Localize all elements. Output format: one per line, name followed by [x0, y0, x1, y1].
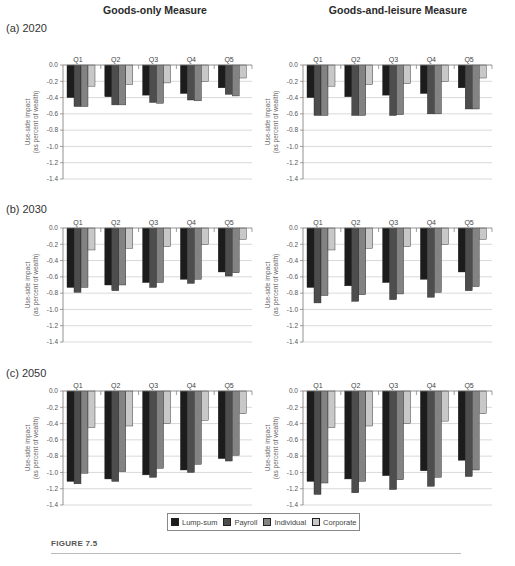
bar: [458, 391, 465, 460]
y-tick-label: -0.4: [287, 420, 299, 427]
bar: [366, 391, 373, 426]
legend-label: Individual: [274, 518, 306, 527]
bar: [390, 391, 397, 490]
bar: [479, 391, 486, 414]
y-axis-title: (as percent of wealth): [272, 417, 280, 480]
chart-legend: Lump-sum Payroll Individual Corporate: [167, 513, 360, 531]
individual-swatch-icon: [263, 518, 271, 526]
lump-sum-swatch-icon: [171, 518, 179, 526]
y-tick-label: -1.0: [287, 469, 299, 476]
figure-divider: [51, 553, 461, 554]
legend-item-lump-sum: Lump-sum: [171, 518, 217, 527]
bar: [465, 391, 472, 477]
figure-label: FIGURE 7.5: [51, 539, 98, 548]
bar: [472, 391, 479, 470]
legend-label: Corporate: [323, 518, 356, 527]
legend-label: Lump-sum: [182, 518, 217, 527]
y-tick-label: -0.8: [287, 452, 299, 459]
y-tick-label: -1.4: [287, 501, 299, 508]
y-tick-label: 0.0: [289, 387, 298, 394]
legend-label: Payroll: [234, 518, 257, 527]
y-tick-label: -0.6: [287, 436, 299, 443]
bar: [404, 391, 411, 424]
legend-item-payroll: Payroll: [223, 518, 257, 527]
bar: [383, 391, 390, 476]
payroll-swatch-icon: [223, 518, 231, 526]
category-label: Q1: [313, 382, 322, 390]
bar: [345, 391, 352, 479]
category-label: Q5: [464, 382, 473, 390]
category-label: Q2: [351, 382, 360, 390]
category-label: Q3: [389, 382, 398, 390]
corporate-swatch-icon: [312, 518, 320, 526]
bar-chart-svg: 0.0-0.2-0.4-0.6-0.8-1.0-1.2-1.4Use-side …: [0, 0, 515, 566]
bar: [352, 391, 359, 493]
y-tick-label: -1.2: [287, 485, 299, 492]
bar: [434, 391, 441, 477]
bar: [397, 391, 404, 480]
bar: [359, 391, 366, 481]
bar: [441, 391, 448, 421]
y-tick-label: -0.2: [287, 404, 299, 411]
category-label: Q4: [427, 382, 436, 390]
bar: [420, 391, 427, 471]
chart-2050-goods-and-leisure: 0.0-0.2-0.4-0.6-0.8-1.0-1.2-1.4Use-side …: [0, 0, 515, 566]
bar: [307, 391, 314, 481]
bar: [328, 391, 335, 428]
y-axis-title: Use-side impact: [264, 425, 272, 472]
bar: [321, 391, 328, 483]
bar: [427, 391, 434, 486]
legend-item-individual: Individual: [263, 518, 306, 527]
legend-item-corporate: Corporate: [312, 518, 356, 527]
bar: [314, 391, 321, 494]
